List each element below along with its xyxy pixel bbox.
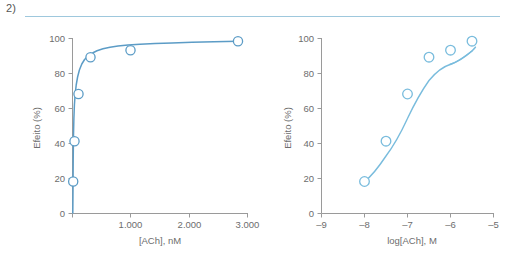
right-ytick-60: 60 xyxy=(303,103,314,114)
right-point-4 xyxy=(424,52,434,62)
right-point-5 xyxy=(446,45,456,55)
right-ytick-20: 20 xyxy=(303,173,314,184)
right-data-points xyxy=(360,36,477,186)
right-ytick-40: 40 xyxy=(303,138,314,149)
right-xtick-minus6: –6 xyxy=(445,219,456,230)
right-x-axis-title: log[ACh], M xyxy=(387,235,437,246)
right-y-ticks xyxy=(318,39,322,214)
right-point-3 xyxy=(403,89,413,99)
chart-semilog-dose-response: 100 80 60 40 20 0 –9 –8 –7 –6 –5 log[ACh… xyxy=(0,0,510,262)
right-ytick-80: 80 xyxy=(303,68,314,79)
right-point-6 xyxy=(467,36,477,46)
figure-container: 2) 100 80 60 40 20 0 xyxy=(0,0,510,262)
right-point-1 xyxy=(360,177,370,187)
right-xtick-minus5: –5 xyxy=(488,219,499,230)
right-curve xyxy=(365,47,476,181)
right-ytick-0: 0 xyxy=(309,208,314,219)
right-x-ticks xyxy=(322,214,494,218)
right-x-tick-labels: –9 –8 –7 –6 –5 xyxy=(316,219,499,230)
right-xtick-minus9: –9 xyxy=(316,219,327,230)
right-xtick-minus8: –8 xyxy=(359,219,370,230)
right-point-2 xyxy=(381,136,391,146)
right-y-tick-labels: 100 80 60 40 20 0 xyxy=(298,33,314,219)
right-xtick-minus7: –7 xyxy=(402,219,413,230)
right-y-axis-title: Efeito (%) xyxy=(282,107,293,149)
right-ytick-100: 100 xyxy=(298,33,314,44)
